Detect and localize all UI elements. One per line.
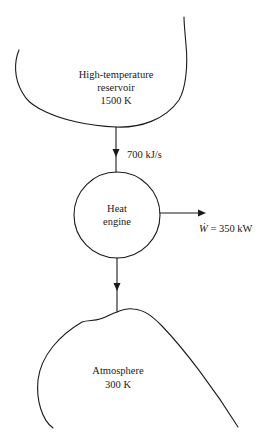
heat-engine-diagram: High-temperature reservoir 1500 K 700 kJ… [0,0,270,443]
work-output-arrowhead-icon [198,210,206,217]
heat-rejection-arrowhead-icon [114,283,121,291]
work-rate-value: = 350 kW [208,223,253,234]
atmosphere-name: Atmosphere [92,365,144,376]
high-reservoir-name-line2: reservoir [97,82,135,93]
high-reservoir-temperature: 1500 K [100,95,132,106]
heat-input-arrowhead-icon [113,149,120,157]
high-reservoir-name: High-temperature [79,69,154,80]
work-output-label: Ẇ = 350 kW [199,223,253,234]
heat-engine-label-line2: engine [103,216,131,227]
atmosphere-temperature: 300 K [105,379,131,390]
heat-engine-label-line1: Heat [107,203,127,214]
heat-input-label: 700 kJ/s [127,149,162,160]
heat-engine-circle [74,172,160,258]
